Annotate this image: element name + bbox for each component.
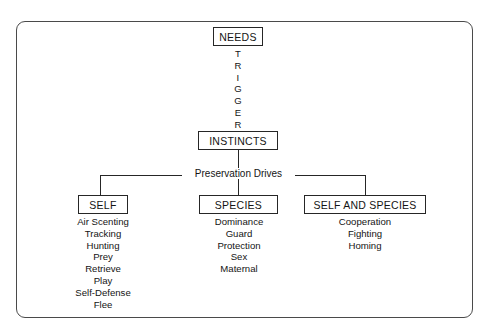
trigger-letter-5: G [234, 95, 242, 107]
list-item: Guard [179, 228, 299, 240]
connector-bus-to-self-and-species [365, 175, 366, 196]
list-self-and-species-items: Cooperation Fighting Homing [305, 216, 425, 251]
node-self: SELF [78, 195, 128, 214]
list-item: Retrieve [43, 263, 163, 275]
diagram-canvas: NEEDS T R I G G E R INSTINCTS Preservati… [0, 0, 488, 333]
node-instincts: INSTINCTS [198, 131, 278, 150]
node-needs: NEEDS [213, 27, 263, 46]
list-item: Flee [43, 299, 163, 311]
node-self-and-species: SELF AND SPECIES [304, 195, 426, 214]
list-item: Protection [179, 240, 299, 252]
list-item: Play [43, 275, 163, 287]
list-item: Dominance [179, 216, 299, 228]
connector-bus-to-self [100, 175, 101, 196]
list-item: Tracking [43, 228, 163, 240]
list-item: Cooperation [305, 216, 425, 228]
list-item: Air Scenting [43, 216, 163, 228]
list-item: Maternal [179, 263, 299, 275]
list-species-items: Dominance Guard Protection Sex Maternal [179, 216, 299, 275]
trigger-letter-3: I [237, 72, 240, 84]
list-item: Sex [179, 251, 299, 263]
node-species: SPECIES [199, 195, 278, 214]
trigger-letter-6: E [235, 107, 242, 119]
trigger-word-vertical: T R I G G E R [228, 48, 248, 131]
label-preservation-drives: Preservation Drives [182, 168, 295, 179]
list-item: Fighting [305, 228, 425, 240]
list-item: Homing [305, 240, 425, 252]
trigger-letter-2: R [234, 60, 241, 72]
list-self-items: Air Scenting Tracking Hunting Prey Retri… [43, 216, 163, 310]
trigger-letter-1: T [235, 48, 241, 60]
list-item: Self-Defense [43, 287, 163, 299]
trigger-letter-7: R [234, 119, 241, 131]
list-item: Hunting [43, 240, 163, 252]
list-item: Prey [43, 251, 163, 263]
trigger-letter-4: G [234, 83, 242, 95]
